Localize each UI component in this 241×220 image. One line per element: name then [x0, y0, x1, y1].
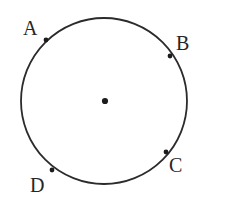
point-label-c: C	[169, 155, 182, 175]
point-dot-c	[164, 150, 169, 155]
circle-diagram-figure: A B C D	[0, 0, 241, 220]
point-label-a: A	[23, 18, 37, 38]
point-dot-d	[50, 168, 55, 173]
point-dot-a	[44, 38, 49, 43]
point-label-d: D	[30, 175, 44, 195]
center-point-dot	[102, 98, 108, 104]
point-dot-b	[168, 54, 173, 59]
point-label-b: B	[176, 33, 189, 53]
